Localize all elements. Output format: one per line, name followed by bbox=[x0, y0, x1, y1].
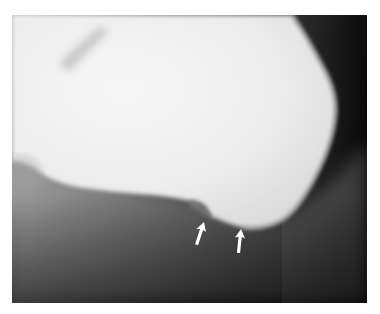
bottom-shadow bbox=[12, 195, 367, 303]
page bbox=[0, 0, 380, 314]
radiograph-image bbox=[12, 15, 367, 303]
radiograph-svg bbox=[12, 15, 367, 303]
